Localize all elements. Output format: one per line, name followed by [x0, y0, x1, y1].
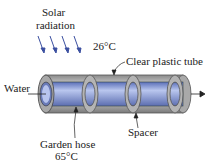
solar-radiation-arrows — [38, 36, 81, 53]
radiation-label: radiation — [36, 19, 75, 31]
water-outlet-arrow — [191, 91, 205, 97]
hose-label: Garden hose — [40, 138, 95, 150]
hose-temp-label: 65°C — [55, 150, 78, 162]
solar-water-heater-diagram — [0, 0, 206, 164]
tube-label: Clear plastic tube — [126, 55, 203, 67]
garden-hose — [48, 82, 183, 106]
water-label: Water — [4, 82, 30, 94]
solar-label: Solar — [42, 6, 65, 18]
hose-leader — [74, 110, 76, 138]
spacer-label: Spacer — [128, 126, 158, 138]
ambient-temp-label: 26°C — [93, 40, 116, 52]
